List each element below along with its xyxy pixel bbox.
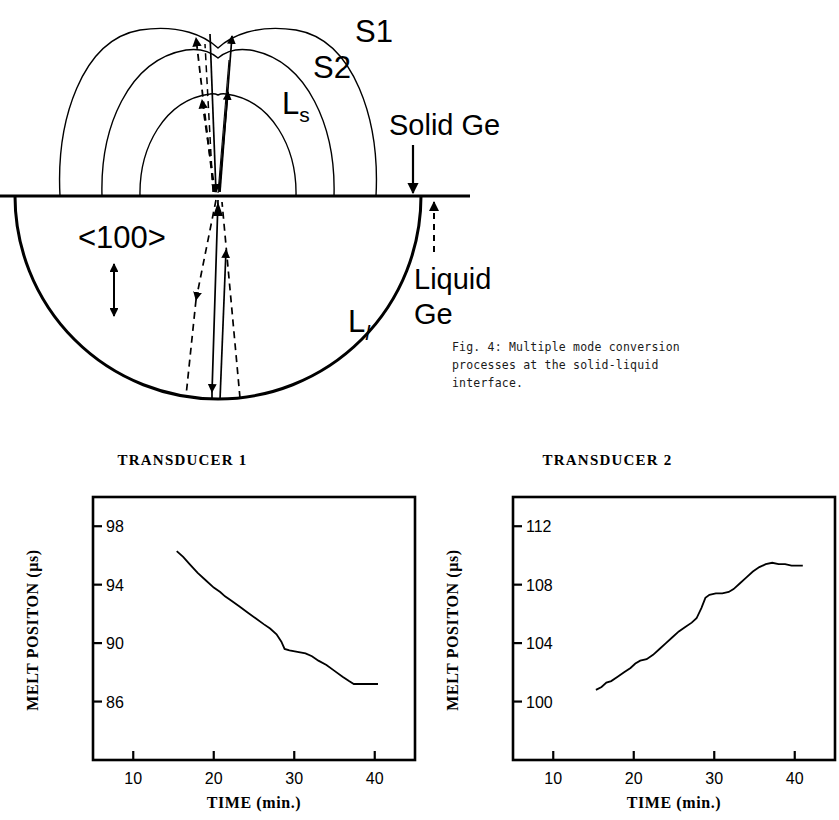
- solid-side-dashed-rays: [196, 38, 215, 192]
- svg-text:86: 86: [106, 694, 124, 711]
- figure-caption: Fig. 4: Multiple mode conversion process…: [452, 338, 782, 392]
- svg-text:98: 98: [106, 518, 124, 535]
- chart2-ticks: [513, 526, 795, 760]
- svg-text:30: 30: [285, 770, 303, 787]
- chart2-tick-labels: 10203040100104108112: [526, 518, 804, 787]
- chart-transducer-1: TRANSDUCER 1 1020304086909498 TIME (min.…: [0, 450, 425, 820]
- chart1-xlabel: TIME (min.): [207, 794, 302, 812]
- svg-text:10: 10: [124, 770, 142, 787]
- svg-text:108: 108: [526, 577, 553, 594]
- svg-text:20: 20: [205, 770, 223, 787]
- chart1-frame: [93, 497, 415, 760]
- chart1-data-line: [177, 551, 378, 684]
- svg-text:40: 40: [786, 770, 804, 787]
- svg-text:20: 20: [625, 770, 643, 787]
- label-crystal-orientation: <100>: [78, 220, 166, 255]
- chart-transducer-2: TRANSDUCER 2 10203040100104108112 TIME (…: [420, 450, 839, 820]
- mode-conversion-diagram: S1 S2 Ls Ll Solid Ge Liquid Ge <100>: [0, 0, 500, 430]
- wavefront-ls: [140, 94, 296, 196]
- label-s2: S2: [313, 50, 351, 85]
- svg-text:10: 10: [544, 770, 562, 787]
- chart1-tick-labels: 1020304086909498: [106, 518, 384, 787]
- chart2-frame: [513, 497, 835, 760]
- label-ll: Ll: [348, 304, 371, 344]
- chart2-plot: 10203040100104108112 TIME (min.) MELT PO…: [420, 450, 839, 820]
- label-liquid-ge-line2: Ge: [414, 298, 453, 330]
- svg-text:30: 30: [705, 770, 723, 787]
- svg-text:90: 90: [106, 635, 124, 652]
- figure-container: S1 S2 Ls Ll Solid Ge Liquid Ge <100> Fig…: [0, 0, 839, 820]
- label-ls: Ls: [282, 86, 310, 126]
- chart1-ylabel: MELT POSITON (µs): [24, 549, 42, 710]
- label-s1: S1: [355, 14, 393, 49]
- svg-text:112: 112: [526, 518, 552, 535]
- svg-text:40: 40: [366, 770, 384, 787]
- svg-text:100: 100: [526, 694, 553, 711]
- label-liquid-ge-line1: Liquid: [414, 263, 491, 295]
- label-solid-ge: Solid Ge: [389, 109, 500, 141]
- solid-side-rays: [210, 34, 232, 193]
- chart2-xlabel: TIME (min.): [627, 794, 722, 812]
- chart2-data-line: [596, 563, 803, 690]
- chart1-ticks: [93, 526, 375, 760]
- svg-text:104: 104: [526, 635, 553, 652]
- chart1-plot: 1020304086909498 TIME (min.) MELT POSITO…: [0, 450, 425, 820]
- chart2-ylabel: MELT POSITON (µs): [444, 549, 462, 710]
- svg-text:94: 94: [106, 577, 124, 594]
